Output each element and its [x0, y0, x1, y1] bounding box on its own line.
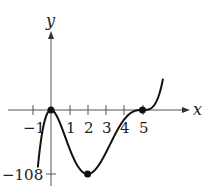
- x-axis-arrow-icon: [182, 107, 190, 113]
- x-axis-label: x: [193, 100, 202, 119]
- chart: x y −1 1 2 3 4 5 −108: [0, 0, 214, 186]
- point-root-5: [139, 107, 146, 114]
- y-axis-label: y: [45, 11, 56, 30]
- x-tick-label: 1: [66, 119, 76, 137]
- y-tick-label: −108: [2, 166, 43, 184]
- x-tick-label: 3: [102, 119, 112, 137]
- x-tick-label: 2: [84, 119, 94, 137]
- point-minimum: [84, 171, 91, 178]
- x-tick-label: 5: [139, 119, 149, 137]
- point-origin: [48, 107, 55, 114]
- y-axis-arrow-icon: [48, 31, 54, 39]
